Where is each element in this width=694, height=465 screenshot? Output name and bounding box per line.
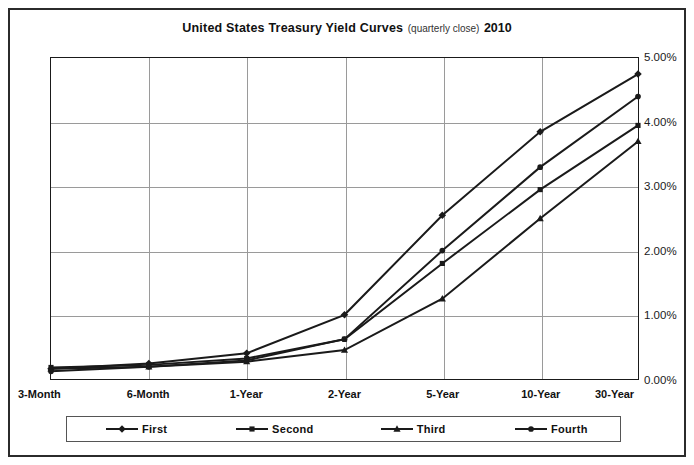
legend-marker-triangle-icon — [380, 422, 414, 436]
legend-item[interactable]: Fourth — [482, 422, 620, 436]
legend-item[interactable]: Second — [205, 422, 343, 436]
series-line — [51, 125, 638, 367]
data-point-marker — [635, 123, 640, 128]
data-point-marker — [538, 187, 543, 192]
data-point-marker — [439, 248, 445, 254]
legend-label: Fourth — [551, 423, 588, 435]
x-axis-tick-label: 30-Year — [595, 388, 634, 400]
page-title: United States Treasury Yield Curves (qua… — [10, 18, 684, 36]
data-point-marker — [634, 138, 641, 144]
legend-item[interactable]: First — [67, 422, 205, 436]
x-axis-tick-label: 6-Month — [127, 388, 170, 400]
data-point-marker — [244, 358, 250, 364]
data-point-marker — [146, 364, 152, 370]
chart-title-year: 2010 — [484, 21, 512, 35]
legend-marker-diamond-icon — [105, 422, 139, 436]
chart-title-subtitle: (quarterly close) — [408, 23, 480, 34]
chart-title-main: United States Treasury Yield Curves — [182, 21, 403, 35]
x-axis-tick-label: 2-Year — [328, 388, 361, 400]
series-line — [51, 74, 638, 369]
plot-area — [50, 57, 639, 380]
data-point-marker — [48, 368, 54, 374]
x-axis-tick-label: 3-Month — [18, 388, 61, 400]
data-point-marker — [440, 261, 445, 266]
series-layer — [51, 58, 638, 379]
y-axis-tick-label: 2.00% — [644, 245, 677, 257]
data-point-marker — [342, 336, 348, 342]
x-axis-tick-label: 5-Year — [426, 388, 459, 400]
legend-label: Third — [417, 423, 446, 435]
legend-label: Second — [272, 423, 314, 435]
data-point-marker — [635, 94, 641, 100]
y-axis-tick-label: 0.00% — [644, 374, 677, 386]
series-line — [51, 141, 638, 368]
chart-frame: United States Treasury Yield Curves (qua… — [8, 8, 686, 457]
data-point-marker — [537, 164, 543, 170]
legend-marker-square-icon — [235, 422, 269, 436]
y-axis-tick-label: 5.00% — [644, 51, 677, 63]
chart-legend: FirstSecondThirdFourth — [66, 416, 621, 442]
legend-marker-circle-icon — [514, 422, 548, 436]
series-line — [51, 97, 638, 372]
y-axis-tick-label: 1.00% — [644, 309, 677, 321]
x-axis-tick-label: 10-Year — [521, 388, 560, 400]
legend-label: First — [142, 423, 167, 435]
legend-item[interactable]: Third — [344, 422, 482, 436]
x-axis-tick-label: 1-Year — [230, 388, 263, 400]
y-axis-tick-label: 3.00% — [644, 180, 677, 192]
y-axis-tick-label: 4.00% — [644, 116, 677, 128]
